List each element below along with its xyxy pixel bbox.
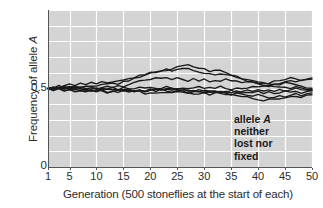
- annotation-allele-neither-lost-nor-fixed: allele A neither lost nor fixed: [234, 113, 273, 162]
- y-tick-label-0.5: 0.5: [31, 81, 47, 93]
- annotation-line-2: neither: [234, 125, 273, 137]
- x-tick-label-10: 10: [90, 170, 102, 182]
- annotation-line-1: allele A: [234, 113, 273, 125]
- y-axis-label-italic: A: [27, 36, 39, 44]
- x-tick-label-15: 15: [117, 170, 129, 182]
- x-tick-label-1: 1: [45, 170, 51, 182]
- annotation-line-3: lost nor: [234, 137, 273, 149]
- annotation-line-4: fixed: [234, 150, 273, 162]
- x-tick-label-20: 20: [144, 170, 156, 182]
- x-tick-label-30: 30: [198, 170, 210, 182]
- x-tick-label-50: 50: [306, 170, 318, 182]
- x-tick-label-25: 25: [171, 170, 183, 182]
- x-tick-label-35: 35: [225, 170, 237, 182]
- chart-figure: Frequency of allele A 0.5 0 151015202530…: [0, 0, 323, 208]
- x-axis-label: Generation (500 stoneflies at the start …: [38, 188, 318, 200]
- x-tick-label-40: 40: [252, 170, 264, 182]
- x-tick-label-5: 5: [66, 170, 72, 182]
- x-tick-label-45: 45: [279, 170, 291, 182]
